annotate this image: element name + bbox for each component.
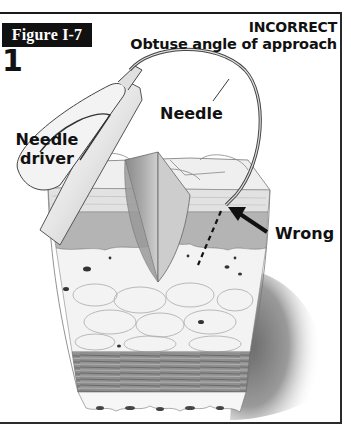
callout-needle-driver-line2: driver bbox=[12, 149, 82, 168]
callout-wrong: Wrong bbox=[275, 224, 334, 243]
muscle-layer bbox=[72, 352, 250, 392]
callout-needle-driver: Needle driver bbox=[12, 130, 82, 168]
title-subtitle: Obtuse angle of approach bbox=[130, 36, 337, 52]
callout-needle-driver-line1: Needle bbox=[12, 130, 82, 149]
figure-number: 1 bbox=[2, 44, 23, 78]
needle-leader-line bbox=[213, 79, 229, 101]
title-incorrect: INCORRECT bbox=[249, 19, 337, 35]
callout-needle: Needle bbox=[160, 104, 223, 123]
skin-suture-illustration bbox=[0, 0, 351, 426]
